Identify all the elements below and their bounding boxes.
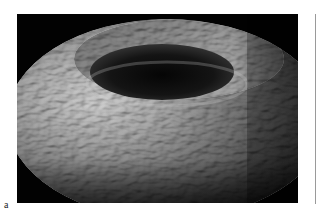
torus-image	[17, 14, 298, 203]
column-divider	[315, 14, 316, 204]
figure-panel-a	[17, 14, 298, 203]
panel-label: a	[4, 199, 8, 211]
